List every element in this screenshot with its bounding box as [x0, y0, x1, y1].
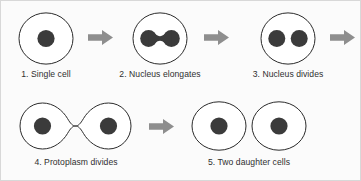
nucleus-stage-1	[37, 30, 54, 47]
cell-outline-stage-3	[260, 12, 316, 65]
cell-outline-stage-5-left	[191, 101, 247, 151]
caption-stage-1: 1. Single cell	[1, 69, 91, 79]
cell-outline-stage-4	[19, 102, 132, 150]
caption-stage-3: 3. Nucleus divides	[239, 69, 337, 79]
cell-outline-stage-2	[132, 12, 188, 65]
cell-division-diagram: 1. Single cell 2. Nucleus elongates	[0, 0, 361, 181]
arrow-stage-2-to-3	[204, 30, 229, 45]
nucleus-stage-3-left	[268, 30, 285, 47]
arrow-stage-3-to-4	[330, 30, 355, 45]
nucleus-stage-4-right	[100, 117, 117, 134]
nucleus-stage-3-right	[291, 30, 308, 47]
arrow-stage-1-to-2	[88, 30, 113, 45]
cell-outline-stage-1	[18, 12, 74, 65]
nucleus-stage-5-left	[210, 117, 227, 134]
nucleus-stage-4-left	[34, 117, 51, 134]
cell-outline-stage-5-right	[251, 101, 307, 151]
arrow-stage-4-to-5	[149, 119, 174, 134]
caption-stage-4: 4. Protoplasm divides	[15, 157, 137, 167]
caption-stage-2: 2. Nucleus elongates	[111, 69, 209, 79]
nucleus-stage-5-right	[270, 117, 287, 134]
caption-stage-5: 5. Two daughter cells	[176, 157, 322, 167]
